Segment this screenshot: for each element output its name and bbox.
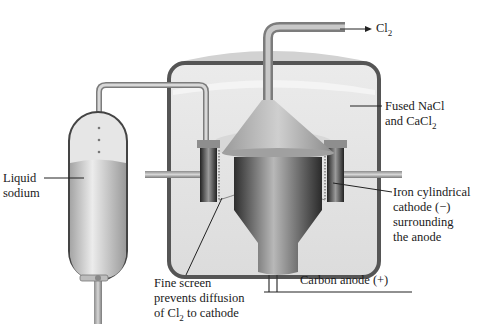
label-cathode-line1: Iron cylindrical bbox=[393, 185, 470, 200]
cathode-connector-right bbox=[340, 171, 402, 178]
label-cathode-line4: the anode bbox=[393, 230, 470, 245]
label-cathode: Iron cylindrical cathode (−) surrounding… bbox=[393, 185, 470, 245]
label-screen-line3: of Cl2 to cathode bbox=[154, 306, 244, 321]
label-screen-line2: prevents diffusion bbox=[154, 291, 244, 306]
label-screen-line1: Fine screen bbox=[154, 276, 244, 291]
label-liquid-sodium: Liquid sodium bbox=[3, 171, 40, 201]
label-liquid-sodium-line1: Liquid bbox=[3, 171, 40, 186]
label-fused-salt-line2: and CaCl2 bbox=[385, 114, 444, 129]
label-cathode-line2: cathode (−) bbox=[393, 200, 470, 215]
label-anode-text: Carbon anode (+) bbox=[300, 273, 388, 287]
label-fused-salt-line2-sub: 2 bbox=[432, 121, 437, 131]
label-fused-salt-line2-text: and CaCl bbox=[385, 114, 432, 128]
label-screen: Fine screen prevents diffusion of Cl2 to… bbox=[154, 276, 244, 321]
label-fused-salt-line1: Fused NaCl bbox=[385, 99, 444, 114]
label-screen-line3-suffix: to cathode bbox=[184, 306, 239, 320]
label-screen-line3-prefix: of Cl bbox=[154, 306, 179, 320]
label-cl2-text: Cl bbox=[376, 21, 388, 35]
label-fused-salt: Fused NaCl and CaCl2 bbox=[385, 99, 444, 129]
drain-valve bbox=[80, 275, 108, 324]
sodium-collection-vessel bbox=[69, 112, 127, 280]
label-cl2: Cl2 bbox=[376, 21, 392, 36]
cathode-connector-left bbox=[145, 171, 205, 178]
label-liquid-sodium-line2: sodium bbox=[3, 186, 40, 201]
label-cathode-line3: surrounding bbox=[393, 215, 470, 230]
label-anode: Carbon anode (+) bbox=[300, 273, 388, 288]
label-cl2-sub: 2 bbox=[388, 28, 393, 38]
